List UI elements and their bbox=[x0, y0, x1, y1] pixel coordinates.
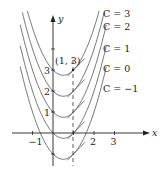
x-axis-label: x bbox=[152, 127, 158, 138]
svg-text:3: 3 bbox=[111, 136, 117, 147]
y-axis-arrow-icon bbox=[51, 15, 56, 22]
curve-label: C = 2 bbox=[103, 21, 130, 32]
curve-label: C = 1 bbox=[103, 43, 130, 54]
curve-label: C = −1 bbox=[103, 83, 138, 94]
y-axis-label: y bbox=[57, 13, 64, 24]
antiderivative-family-diagram: −123 123 x y (1, 3) C = 3C = 2C = 1C = 0… bbox=[0, 0, 163, 176]
curve-label: C = 0 bbox=[103, 63, 130, 74]
tangent-segments bbox=[67, 58, 84, 160]
svg-text:2: 2 bbox=[44, 86, 50, 97]
svg-text:2: 2 bbox=[90, 136, 96, 147]
svg-text:−1: −1 bbox=[29, 136, 43, 147]
tangent-segment bbox=[67, 100, 84, 118]
svg-text:1: 1 bbox=[44, 107, 50, 118]
tangent-segment bbox=[67, 121, 84, 139]
curve-labels: C = 3C = 2C = 1C = 0C = −1 bbox=[103, 8, 138, 94]
tangent-segment bbox=[67, 142, 84, 160]
x-axis-arrow-icon bbox=[143, 131, 150, 136]
svg-text:3: 3 bbox=[44, 65, 50, 76]
point-marker bbox=[72, 69, 74, 71]
curve-c1 bbox=[20, 25, 106, 118]
point-label: (1, 3) bbox=[55, 55, 81, 66]
curve-label: C = 3 bbox=[103, 8, 130, 19]
tangent-segment bbox=[67, 79, 84, 97]
